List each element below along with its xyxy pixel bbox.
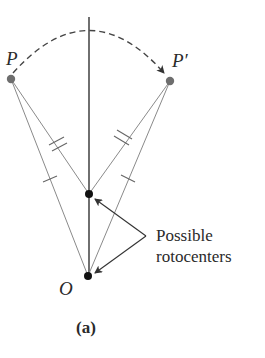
annotation-line-2: rotocenters <box>156 246 232 267</box>
double-tick-right <box>114 130 132 145</box>
label-P-prime: P′ <box>172 50 188 72</box>
figure-caption: (a) <box>76 318 96 338</box>
arrow-to-mid <box>95 199 146 236</box>
rotation-diagram <box>0 0 265 358</box>
line-P-to-mid <box>11 79 89 194</box>
point-rotocenter-mid <box>85 190 93 198</box>
annotation-line-1: Possible <box>156 225 232 246</box>
point-P <box>7 75 15 83</box>
label-P: P <box>6 48 18 70</box>
single-tick-left <box>43 176 57 182</box>
point-O <box>84 272 92 280</box>
label-O: O <box>59 278 73 300</box>
annotation-rotocenters: Possible rotocenters <box>156 225 232 267</box>
point-P-prime <box>166 77 174 85</box>
line-P-to-O <box>11 79 88 276</box>
